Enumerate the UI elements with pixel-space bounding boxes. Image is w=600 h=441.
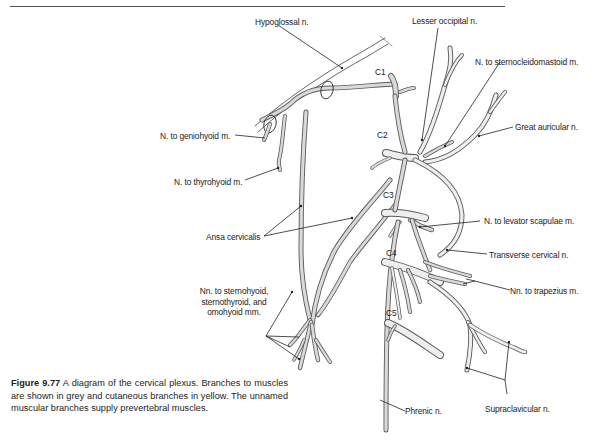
c1-root-nerve bbox=[262, 76, 414, 120]
transverse-cervical-nerve bbox=[415, 160, 462, 255]
label-supraclavicular: Supraclavicular n. bbox=[485, 404, 550, 414]
figure-caption: Figure 9.77 A diagram of the cervical pl… bbox=[11, 377, 288, 415]
label-transverse-cervical: Transverse cervical n. bbox=[489, 250, 568, 260]
label-infrahyoid-line-2: sternothyroid, and bbox=[196, 297, 272, 308]
figure-number: Figure 9.77 bbox=[11, 378, 60, 388]
label-geniohyoid: N. to geniohyoid m. bbox=[160, 131, 230, 141]
label-hypoglossal: Hypoglossal n. bbox=[255, 17, 309, 27]
lesser-occipital-nerve bbox=[420, 48, 462, 152]
label-infrahyoid: Nn. to sternohyoid, sternothyroid, and o… bbox=[196, 286, 272, 318]
root-label-c3: C3 bbox=[383, 190, 394, 200]
root-label-c5: C5 bbox=[386, 308, 397, 318]
ansa-inferior-root bbox=[312, 180, 395, 325]
label-thyrohyoid: N. to thyrohyoid m. bbox=[174, 177, 242, 187]
label-sternocleidomastoid: N. to sternocleidomastoid m. bbox=[475, 57, 578, 67]
root-label-c1: C1 bbox=[375, 67, 386, 77]
label-great-auricular: Great auricular n. bbox=[515, 122, 578, 132]
label-trapezius: Nn. to trapezius m. bbox=[510, 286, 578, 296]
label-lesser-occipital: Lesser occipital n. bbox=[412, 16, 477, 26]
thyrohyoid-branch bbox=[279, 116, 285, 170]
label-phrenic: Phrenic n. bbox=[405, 406, 442, 416]
ansa-superior-root bbox=[301, 112, 310, 320]
root-label-c4: C4 bbox=[386, 248, 397, 258]
label-ansa-cervicalis: Ansa cervicalis bbox=[206, 232, 260, 242]
label-infrahyoid-line-1: Nn. to sternohyoid, bbox=[196, 286, 272, 297]
c5-root-nerve bbox=[388, 323, 440, 355]
ansa-muscular-branches bbox=[290, 320, 330, 368]
great-auricular-nerve bbox=[425, 92, 505, 162]
label-levator-scapulae: N. to levator scapulae m. bbox=[484, 216, 574, 226]
root-label-c2: C2 bbox=[377, 130, 388, 140]
label-infrahyoid-line-3: omohyoid mm. bbox=[196, 307, 272, 318]
